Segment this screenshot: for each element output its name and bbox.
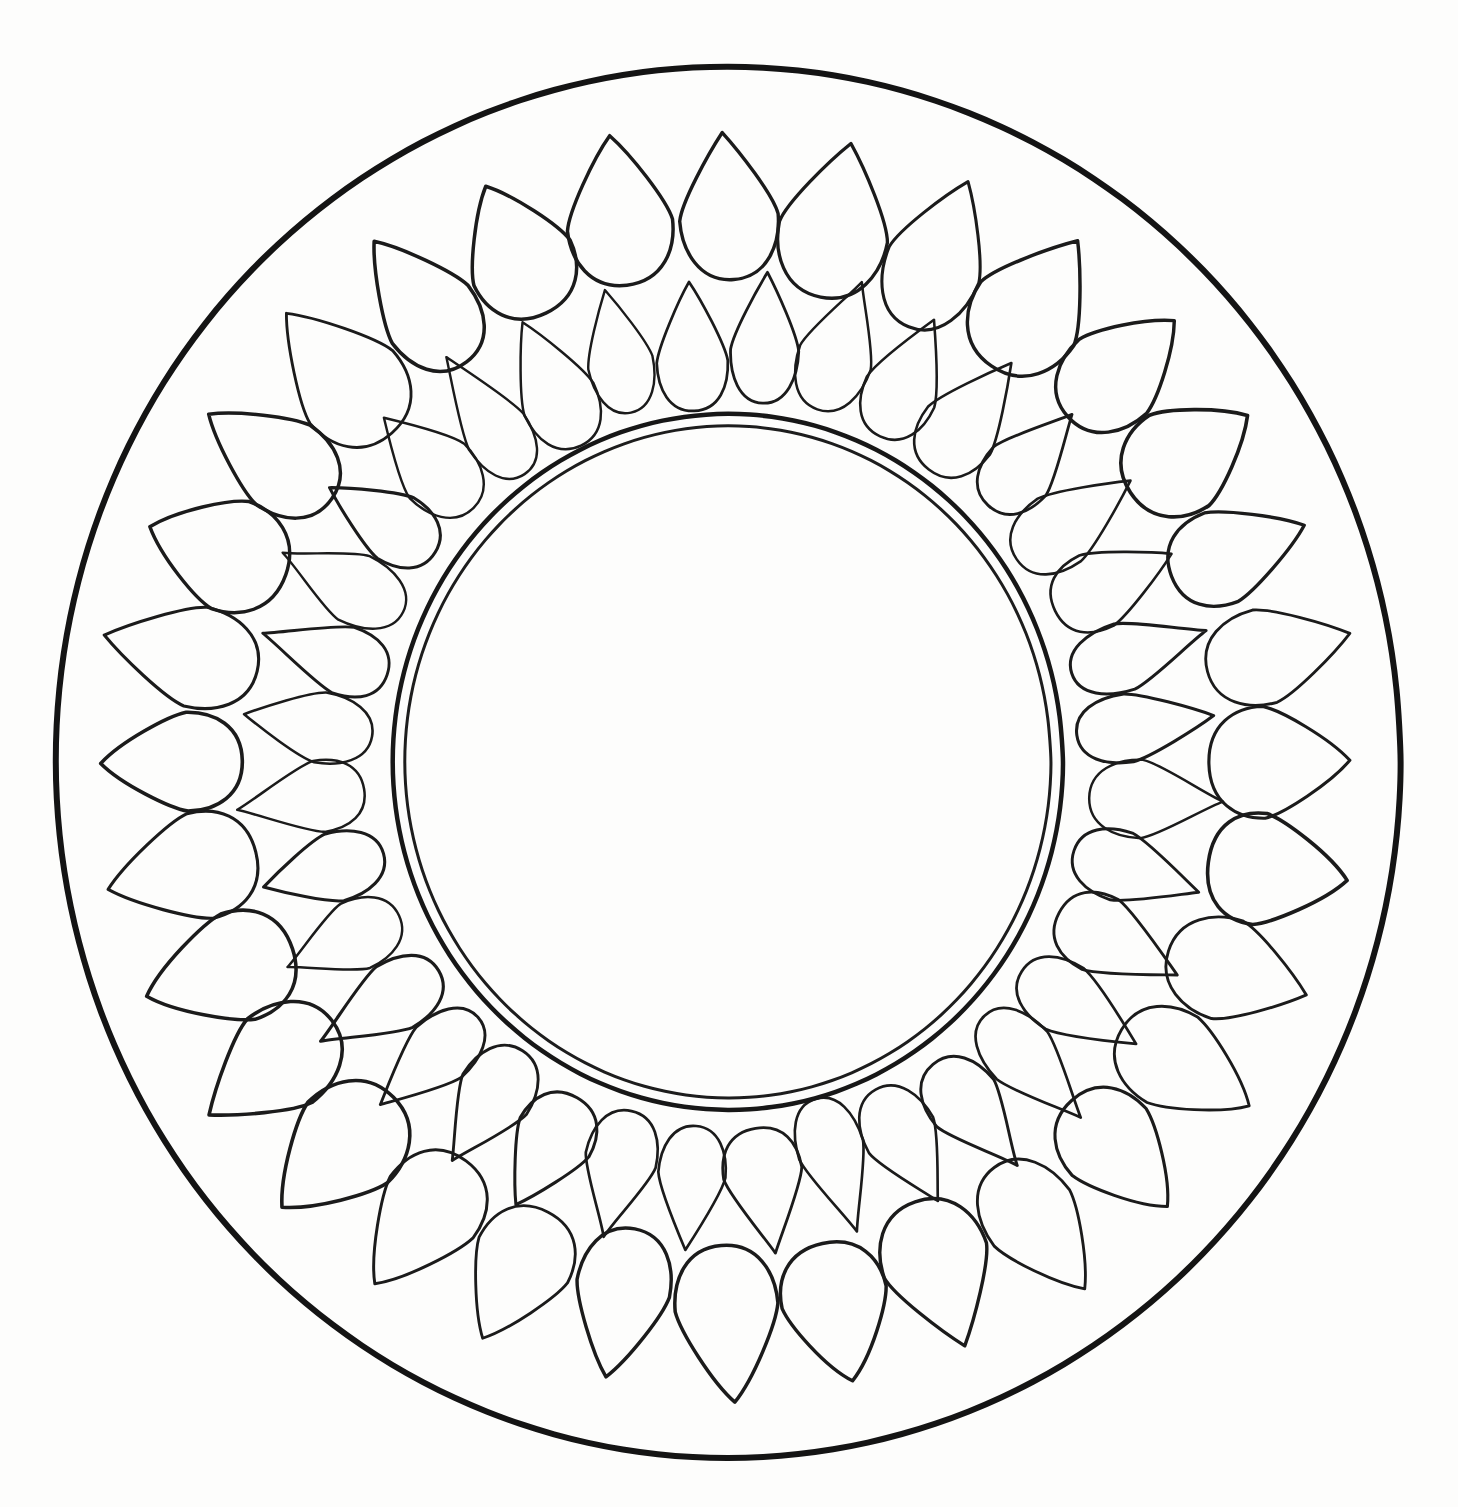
mandala-drawing <box>0 0 1458 1507</box>
paper-background <box>0 0 1458 1507</box>
mandala-canvas <box>0 0 1458 1507</box>
